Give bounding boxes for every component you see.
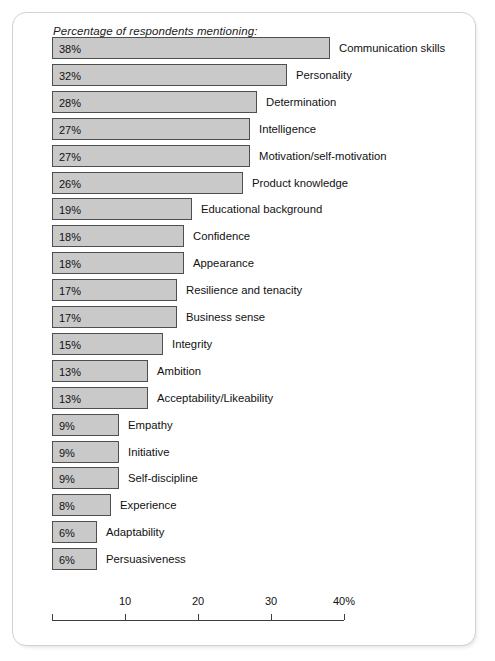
bar-value-label: 27% [59,122,81,138]
bar-value-label: 28% [59,95,81,111]
bar-category-label: Experience [120,497,177,513]
bar-rect[interactable]: 18% [52,252,184,274]
bar-rect[interactable]: 18% [52,225,184,247]
bar-category-label: Persuasiveness [106,551,186,567]
bar-category-label: Empathy [128,417,173,433]
bar-value-label: 9% [59,445,75,461]
bar-value-label: 26% [59,176,81,192]
bar-chart-plot-area: 38%Communication skills32%Personality28%… [13,13,477,647]
bar-category-label: Adaptability [106,524,164,540]
bar-value-label: 32% [59,68,81,84]
bar-value-label: 17% [59,310,81,326]
bar-value-label: 18% [59,256,81,272]
bar-rect[interactable]: 17% [52,306,177,328]
bar-rect[interactable]: 19% [52,198,192,220]
bar-value-label: 27% [59,149,81,165]
bar-rect[interactable]: 32% [52,64,287,86]
bar-category-label: Appearance [193,255,254,271]
axis-start-cap [52,614,53,620]
bar-category-label: Confidence [193,228,250,244]
bar-category-label: Initiative [128,444,169,460]
bar-value-label: 9% [59,418,75,434]
bar-rect[interactable]: 27% [52,145,250,167]
bar-rect[interactable]: 27% [52,118,250,140]
bar-value-label: 8% [59,498,75,514]
bar-category-label: Resilience and tenacity [186,282,302,298]
bar-rect[interactable]: 15% [52,333,163,355]
bar-rect[interactable]: 9% [52,441,119,463]
bar-value-label: 15% [59,337,81,353]
bar-value-label: 18% [59,229,81,245]
axis-end-cap [344,614,345,620]
axis-tick [271,614,272,620]
bar-value-label: 13% [59,364,81,380]
axis-tick-label: 40% [333,595,355,607]
bar-rect[interactable]: 13% [52,360,148,382]
axis-tick [198,614,199,620]
bar-category-label: Integrity [172,336,212,352]
bar-category-label: Ambition [157,363,201,379]
axis-tick-label: 20 [192,595,204,607]
bar-category-label: Personality [296,67,352,83]
bar-value-label: 6% [59,525,75,541]
bar-value-label: 6% [59,552,75,568]
bar-rect[interactable]: 28% [52,91,257,113]
bar-value-label: 17% [59,283,81,299]
bar-rect[interactable]: 17% [52,279,177,301]
figure-frame: Percentage of respondents mentioning: 38… [12,12,476,646]
bar-category-label: Motivation/self-motivation [259,148,386,164]
axis-tick [125,614,126,620]
bar-rect[interactable]: 9% [52,414,119,436]
bar-category-label: Educational background [201,201,322,217]
x-axis: 10203040% [13,13,477,53]
bar-category-label: Self-discipline [128,470,198,486]
bar-rect[interactable]: 26% [52,172,243,194]
axis-tick-label: 10 [119,595,131,607]
bar-value-label: 13% [59,391,81,407]
bar-category-label: Product knowledge [252,175,348,191]
bar-value-label: 9% [59,471,75,487]
axis-tick-label: 30 [265,595,277,607]
bar-rect[interactable]: 13% [52,387,148,409]
bar-rect[interactable]: 8% [52,494,111,516]
bar-rect[interactable]: 6% [52,521,97,543]
bar-category-label: Acceptability/Likeability [157,390,273,406]
axis-line [52,620,344,621]
bar-rect[interactable]: 9% [52,467,119,489]
bar-category-label: Intelligence [259,121,316,137]
bar-rect[interactable]: 6% [52,548,97,570]
bar-category-label: Determination [266,94,336,110]
bar-value-label: 19% [59,202,81,218]
bar-category-label: Business sense [186,309,265,325]
